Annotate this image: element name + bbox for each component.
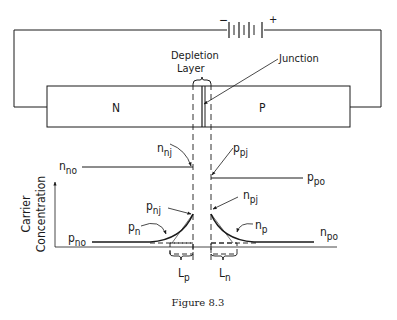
junction-pointer bbox=[204, 59, 278, 104]
n-region-label: N bbox=[112, 101, 120, 115]
lp-brace bbox=[170, 251, 193, 260]
p-no-label: pno bbox=[68, 231, 87, 248]
l-n-label: Ln bbox=[219, 266, 231, 283]
n-nj-label: nnj bbox=[157, 141, 172, 158]
ln-brace bbox=[211, 254, 237, 260]
layer-label: Layer bbox=[177, 62, 206, 75]
concentration-axes bbox=[55, 182, 337, 247]
battery-icon bbox=[229, 22, 262, 38]
lp-tangent bbox=[172, 214, 193, 243]
junction-label: Junction bbox=[278, 52, 319, 65]
l-p-label: Lp bbox=[178, 266, 190, 283]
depletion-label: Depletion bbox=[171, 49, 219, 62]
n-po-label: npo bbox=[320, 225, 339, 242]
battery-minus-label: − bbox=[219, 13, 228, 27]
n-no-label: nno bbox=[59, 159, 78, 176]
battery-plus-label: + bbox=[269, 13, 277, 26]
p-nj-label: pnj bbox=[146, 199, 161, 216]
figure-caption: Figure 8.3 bbox=[172, 297, 225, 308]
p-n-label: pn bbox=[128, 220, 141, 237]
p-po-label: ppo bbox=[307, 170, 326, 187]
pn-junction-diagram: − + N P Depletion Layer Junction Carrier… bbox=[0, 0, 397, 320]
depletion-brace bbox=[193, 77, 211, 84]
n-pj-label: npj bbox=[243, 188, 258, 205]
p-region-label: P bbox=[259, 101, 266, 115]
ln-tangent bbox=[211, 214, 233, 243]
semiconductor-bar bbox=[47, 86, 350, 127]
equilibrium-dashed bbox=[150, 243, 258, 254]
y-axis-label-line2: Concentration bbox=[34, 176, 48, 252]
y-axis-label-line1: Carrier bbox=[19, 195, 33, 232]
p-pj-label: ppj bbox=[233, 141, 248, 158]
p-n-curve bbox=[92, 214, 193, 242]
label-pointers bbox=[141, 144, 253, 234]
n-p-label: np bbox=[255, 218, 268, 235]
